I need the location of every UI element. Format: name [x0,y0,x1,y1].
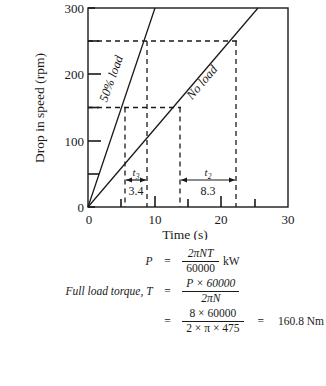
fraction-torque-numerator: P × 60000 [182,277,239,291]
x-tick-label-10: 10 [149,212,162,227]
fraction-power-numerator: 2πNT [182,247,219,261]
fraction-result-numerator: 8 × 60000 [182,307,243,321]
y-tick-label-100: 100 [65,134,85,149]
equation-row-result-lhs [0,306,155,336]
x-tick-labels: 0 10 20 30 [86,212,295,227]
equation-block: P = 2πNT 60000 kW Full load torque, T = … [0,246,326,386]
interval-t3: t3 3.4 [126,166,146,198]
fraction-power-denominator: 60000 [182,261,219,276]
interval-t2: t2 8.3 [181,166,235,198]
fraction-torque: P × 60000 2πN [182,277,239,305]
interval-t3-value: 3.4 [129,184,144,198]
fraction-result-denominator: 2 × π × 475 [182,321,243,336]
figure-chart: 300 200 100 0 0 10 20 30 Time (s) Drop i… [0,0,326,240]
fraction-power: 2πNT 60000 [182,247,219,275]
fraction-power-unit: kW [219,255,240,267]
result-value: 160.8 Nm [264,315,324,327]
y-tick-labels: 300 200 100 0 [65,1,85,215]
equation-row-power: P = 2πNT 60000 kW [0,246,326,276]
drop-in-speed-vs-time-chart: 300 200 100 0 0 10 20 30 Time (s) Drop i… [0,0,326,240]
equation-row-power-equals: = [155,246,181,276]
equation-row-torque: Full load torque, T = P × 60000 2πN [0,276,326,306]
y-axis-title: Drop in speed (rpm) [32,53,47,163]
series-label-no-load: No load [183,62,221,103]
equation-row-result: = 8 × 60000 2 × π × 475 =160.8 Nm [0,306,326,336]
x-axis-title: Time (s) [162,227,208,240]
series-label-50-percent-load: 50% load [96,53,126,104]
x-tick-label-30: 30 [282,212,295,227]
interval-t2-symbol: t2 [205,166,212,181]
y-tick-label-200: 200 [65,67,85,82]
equation-row-torque-rhs: P × 60000 2πN [180,276,326,306]
equation-row-result-equals: = [155,306,181,336]
equation-row-power-rhs: 2πNT 60000 kW [180,246,326,276]
equation-table: P = 2πNT 60000 kW Full load torque, T = … [0,246,326,336]
fraction-result: 8 × 60000 2 × π × 475 [182,307,243,335]
interval-t3-symbol: t3 [133,166,140,181]
series-line-no-load [88,8,258,207]
y-tick-label-0: 0 [78,200,85,215]
y-tick-label-300: 300 [65,1,85,16]
x-tick-label-0: 0 [86,212,93,227]
x-tick-label-20: 20 [215,212,228,227]
equation-row-torque-lhs: Full load torque, T [0,276,155,306]
equation-row-power-lhs: P [0,246,155,276]
result-equals: = [244,315,265,327]
equation-row-result-rhs: 8 × 60000 2 × π × 475 =160.8 Nm [180,306,326,336]
data-series [88,8,258,207]
fraction-torque-denominator: 2πN [182,291,239,306]
equation-row-torque-equals: = [155,276,181,306]
interval-t2-value: 8.3 [201,184,216,198]
